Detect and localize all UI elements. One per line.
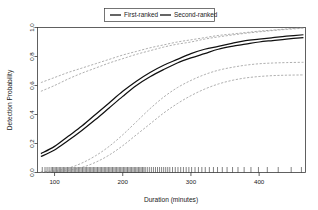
curve-second-ranked-lower-band bbox=[41, 75, 304, 172]
curve-first-ranked-lower-band bbox=[41, 62, 304, 171]
x-tick-label: 200 bbox=[118, 178, 129, 185]
y-axis-tick-labels: 0.00.20.40.60.81.0 bbox=[28, 23, 35, 177]
x-tick-label: 300 bbox=[186, 178, 197, 185]
legend-label-first-ranked: First-ranked bbox=[124, 11, 159, 18]
y-tick-label: 0.6 bbox=[28, 81, 35, 90]
detection-probability-chart: 0.00.20.40.60.81.0 100200300400 Duration… bbox=[0, 0, 318, 210]
curve-first-ranked-upper-band bbox=[41, 28, 304, 83]
x-axis-ticks bbox=[55, 173, 260, 177]
x-axis-title: Duration (minutes) bbox=[144, 196, 198, 204]
legend-label-second-ranked: Second-ranked bbox=[174, 11, 218, 18]
y-tick-label: 0.4 bbox=[28, 110, 35, 119]
x-axis-tick-labels: 100200300400 bbox=[49, 178, 264, 185]
curve-second-ranked-upper-band bbox=[41, 28, 304, 91]
y-axis-title: Detection Probability bbox=[6, 69, 14, 130]
y-tick-label: 0.2 bbox=[28, 139, 35, 148]
x-tick-label: 400 bbox=[254, 178, 265, 185]
curve-first-ranked bbox=[41, 35, 304, 154]
x-tick-label: 100 bbox=[49, 178, 60, 185]
curve-second-ranked bbox=[41, 38, 304, 157]
chart-figure: 0.00.20.40.60.81.0 100200300400 Duration… bbox=[0, 0, 318, 210]
curve-group bbox=[41, 28, 304, 172]
plot-frame bbox=[38, 28, 306, 173]
y-tick-label: 1.0 bbox=[28, 23, 35, 32]
rug-plot bbox=[42, 167, 301, 173]
legend: First-ranked Second-ranked bbox=[105, 9, 218, 22]
y-axis-ticks bbox=[35, 28, 38, 173]
y-tick-label: 0.8 bbox=[28, 52, 35, 61]
y-tick-label: 0.0 bbox=[28, 168, 35, 177]
